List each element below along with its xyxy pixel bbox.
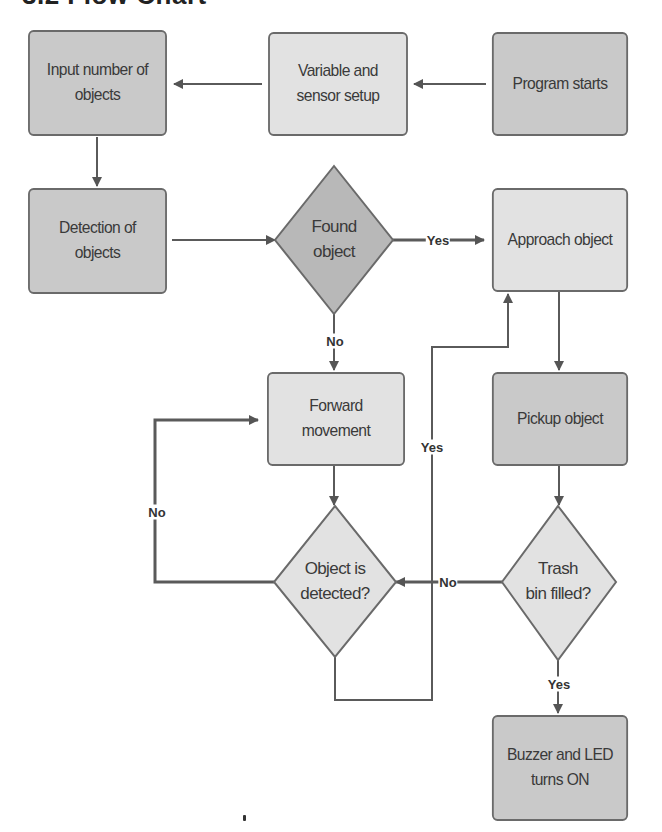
node-buzzer: Buzzer and LEDturns ON (492, 715, 628, 821)
decision-found-label: Foundobject (311, 215, 356, 264)
edge-detected-no (155, 420, 274, 582)
edge-label-detected-no: No (147, 505, 166, 520)
node-label: Input number ofobjects (47, 58, 148, 107)
node-approach: Approach object (492, 188, 628, 292)
decision-detected-label: Object isdetected? (300, 557, 369, 606)
node-detection: Detection ofobjects (28, 188, 167, 294)
node-program-starts: Program starts (492, 32, 628, 136)
node-input-objects: Input number ofobjects (28, 30, 167, 136)
edge-label-found-no: No (325, 334, 344, 349)
node-forward: Forwardmovement (267, 372, 405, 466)
node-label: Variable andsensor setup (297, 59, 380, 108)
edge-label-detected-yes: Yes (420, 440, 444, 455)
edge-label-trash-yes: Yes (547, 677, 571, 692)
decision-trash-label: Trashbin filled? (525, 557, 590, 606)
node-label: Forwardmovement (302, 394, 371, 443)
node-label: Approach object (508, 228, 613, 253)
node-label: Program starts (513, 72, 608, 97)
node-label: Buzzer and LEDturns ON (507, 743, 613, 792)
node-variable-setup: Variable andsensor setup (268, 32, 408, 136)
node-pickup: Pickup object (492, 372, 628, 466)
stray-mark (243, 815, 246, 821)
edge-detected-yes (335, 294, 508, 700)
edge-label-trash-no: No (438, 575, 457, 590)
node-label: Pickup object (517, 407, 603, 432)
node-label: Detection ofobjects (59, 216, 136, 265)
edge-label-found-yes: Yes (426, 233, 450, 248)
